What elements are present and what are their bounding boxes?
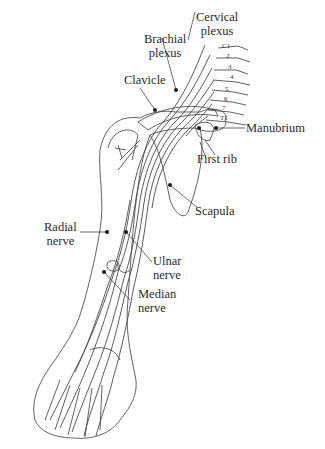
label-first-rib: First rib xyxy=(197,152,237,166)
nerve-line xyxy=(84,80,214,436)
nerve-line xyxy=(60,55,210,428)
label-radial-nerve: Radial nerve xyxy=(44,220,77,248)
label-brachial-plexus: Brachial plexus xyxy=(144,32,186,60)
vertebra-label: 2 xyxy=(226,52,230,60)
label-scapula: Scapula xyxy=(195,204,235,218)
scapula-outline xyxy=(150,128,202,216)
nerve-diagram: C1 2 3 4 5 6 7 T1 Cervical plexus Brachi… xyxy=(0,0,325,449)
vertebra-label: 7 xyxy=(222,104,226,112)
vertebra-label: 5 xyxy=(225,85,229,93)
vertebra-label: C1 xyxy=(222,42,230,50)
label-clavicle: Clavicle xyxy=(124,73,166,87)
vertebra-label: 3 xyxy=(228,63,232,71)
label-median-nerve: Median nerve xyxy=(138,287,176,315)
vertebra-label: 4 xyxy=(230,73,234,81)
label-cervical-plexus: Cervical plexus xyxy=(196,10,238,38)
vertebra-label: 6 xyxy=(224,95,228,103)
label-ulnar-nerve: Ulnar nerve xyxy=(153,254,181,282)
label-manubrium: Manubrium xyxy=(246,121,305,135)
vertebra-label: T1 xyxy=(220,114,228,122)
